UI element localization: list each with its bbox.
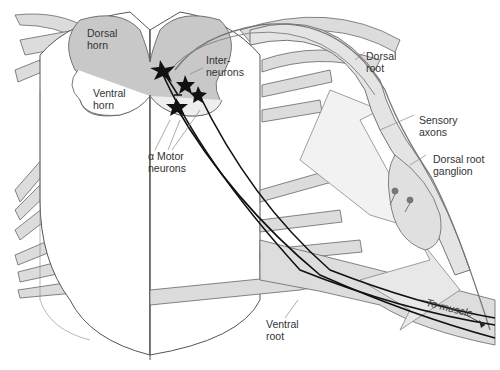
label-ventral-root: Ventral root: [266, 318, 299, 342]
label-sensory-axons: Sensory axons: [419, 114, 458, 138]
label-alpha-motor-neurons: α Motor neurons: [148, 150, 186, 174]
label-dorsal-horn: Dorsal horn: [87, 27, 117, 51]
label-dorsal-root: Dorsal root: [366, 50, 396, 74]
spinal-cord-diagram: [0, 0, 500, 370]
label-ventral-horn: Ventral horn: [93, 87, 126, 111]
label-interneurons: Inter- neurons: [206, 54, 244, 78]
label-dorsal-root-ganglion: Dorsal root ganglion: [433, 153, 484, 177]
